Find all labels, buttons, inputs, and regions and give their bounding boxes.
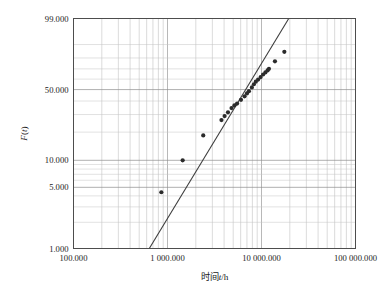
y-tick-label: 10.000 (45, 155, 69, 165)
y-tick-label: 99.000 (45, 14, 69, 24)
y-axis-title-text: F(t) (19, 126, 29, 141)
x-tick-label: 10 000.000 (242, 253, 281, 263)
x-tick-label: 100 000.000 (334, 253, 377, 263)
y-tick-label: 5.000 (49, 182, 68, 192)
weibull-probability-plot: 100.0001 000.00010 000.000100 000.000 99… (0, 0, 385, 295)
x-axis-title: 时间t/h (201, 271, 229, 282)
y-tick-label: 50.000 (45, 85, 69, 95)
x-axis-title-text: 时间t/h (201, 271, 229, 282)
x-tick-label: 1 000.000 (150, 253, 184, 263)
x-tick-label: 100.000 (60, 253, 88, 263)
chart-canvas: 100.0001 000.00010 000.000100 000.000 99… (0, 0, 385, 295)
y-tick-label: 1.000 (49, 244, 68, 254)
y-axis-title: F(t) (19, 126, 29, 141)
